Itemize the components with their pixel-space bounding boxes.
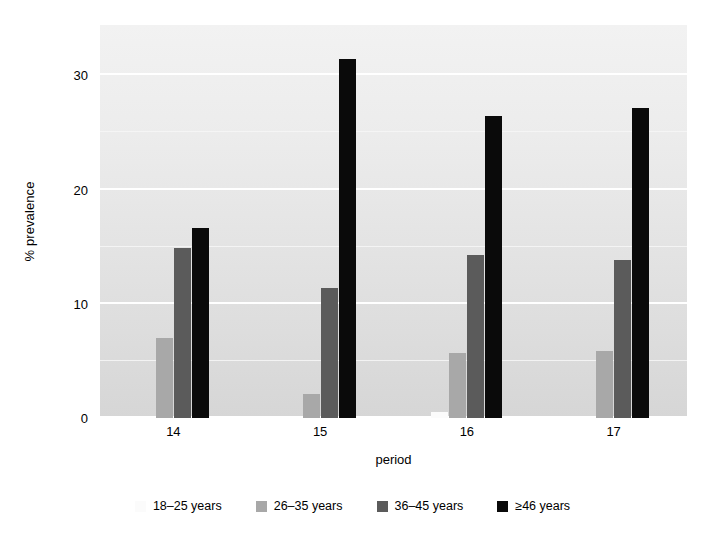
y-axis-tick-label: 20	[52, 182, 88, 197]
bar	[321, 288, 338, 418]
bar	[303, 394, 320, 418]
bar	[431, 412, 448, 418]
x-axis-tick-label: 17	[584, 424, 644, 439]
y-axis-title: % prevalence	[22, 25, 40, 418]
bar	[485, 116, 502, 418]
bar-chart-figure: % prevalence 0102030 14151617 period 18–…	[0, 0, 705, 536]
gridline-minor	[100, 246, 687, 247]
legend-item[interactable]: 26–35 years	[256, 500, 343, 513]
legend-swatch-icon	[135, 501, 146, 512]
gridline-major	[100, 188, 687, 190]
bar	[156, 338, 173, 418]
legend-item[interactable]: 18–25 years	[135, 500, 222, 513]
chart-legend: 18–25 years26–35 years36–45 years≥46 yea…	[0, 500, 705, 513]
y-axis-tick-label: 30	[52, 68, 88, 83]
bar	[449, 353, 466, 418]
legend-swatch-icon	[256, 501, 267, 512]
legend-item[interactable]: 36–45 years	[377, 500, 464, 513]
bar	[467, 255, 484, 418]
bar	[632, 108, 649, 418]
bar	[614, 260, 631, 418]
bar	[596, 351, 613, 418]
y-axis-tick-label: 0	[52, 411, 88, 426]
bar	[174, 248, 191, 418]
legend-item[interactable]: ≥46 years	[497, 500, 570, 513]
x-axis-tick-label: 15	[290, 424, 350, 439]
gridline-major	[100, 73, 687, 75]
x-axis-tick-label: 16	[437, 424, 497, 439]
bar	[339, 59, 356, 418]
bar	[192, 228, 209, 418]
legend-swatch-icon	[377, 501, 388, 512]
legend-label: 36–45 years	[395, 500, 464, 513]
x-axis-title: period	[100, 452, 687, 467]
legend-label: 18–25 years	[153, 500, 222, 513]
legend-swatch-icon	[497, 501, 508, 512]
y-axis-tick-label: 10	[52, 296, 88, 311]
plot-area	[100, 25, 687, 418]
legend-label: ≥46 years	[515, 500, 570, 513]
x-axis-tick-label: 14	[143, 424, 203, 439]
legend-label: 26–35 years	[274, 500, 343, 513]
gridline-minor	[100, 131, 687, 132]
